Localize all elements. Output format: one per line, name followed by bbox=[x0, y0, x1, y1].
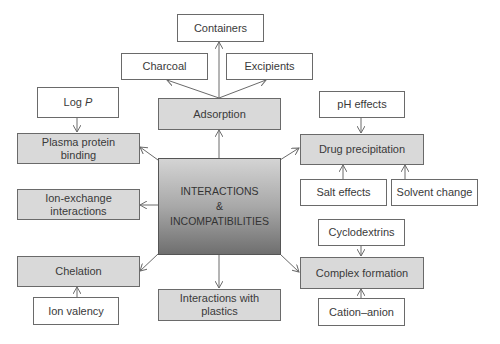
complex-formation-label: Complex formation bbox=[316, 267, 408, 280]
ph-effects-label: pH effects bbox=[337, 98, 386, 111]
drug-precipitation-box: Drug precipitation bbox=[300, 134, 424, 165]
cation-anion-box: Cation–anion bbox=[318, 298, 405, 326]
charcoal-label: Charcoal bbox=[142, 60, 186, 73]
containers-box: Containers bbox=[177, 14, 264, 42]
complex-formation-box: Complex formation bbox=[300, 257, 424, 289]
solvent-change-label: Solvent change bbox=[397, 186, 473, 199]
excipients-label: Excipients bbox=[244, 60, 294, 73]
adsorption-label: Adsorption bbox=[193, 108, 246, 121]
interactions-plastics-label: Interactions with plastics bbox=[180, 292, 259, 318]
containers-label: Containers bbox=[194, 22, 247, 35]
drug-precipitation-label: Drug precipitation bbox=[319, 143, 405, 156]
center-line-1: INTERACTIONS bbox=[180, 184, 258, 199]
ion-exchange-label: Ion-exchange interactions bbox=[45, 192, 112, 218]
chelation-label: Chelation bbox=[55, 265, 101, 278]
ph-effects-box: pH effects bbox=[319, 91, 405, 118]
ion-valency-box: Ion valency bbox=[33, 297, 119, 325]
ion-exchange-box: Ion-exchange interactions bbox=[17, 189, 140, 220]
solvent-change-box: Solvent change bbox=[391, 179, 478, 206]
log-p-box: Log P bbox=[37, 87, 119, 118]
excipients-box: Excipients bbox=[226, 53, 313, 80]
cyclodextrins-label: Cyclodextrins bbox=[328, 226, 394, 239]
chelation-box: Chelation bbox=[17, 256, 140, 287]
salt-effects-box: Salt effects bbox=[300, 179, 387, 206]
ion-valency-label: Ion valency bbox=[48, 305, 104, 318]
cation-anion-label: Cation–anion bbox=[329, 306, 394, 319]
center-line-2: & bbox=[216, 199, 223, 214]
interactions-plastics-box: Interactions with plastics bbox=[158, 289, 281, 321]
log-p-label: Log P bbox=[64, 96, 93, 109]
plasma-protein-binding-label: Plasma protein binding bbox=[42, 136, 115, 162]
adsorption-box: Adsorption bbox=[158, 98, 281, 130]
charcoal-box: Charcoal bbox=[121, 53, 208, 80]
center-line-3: INCOMPATIBILITIES bbox=[170, 214, 269, 229]
plasma-protein-binding-box: Plasma protein binding bbox=[17, 133, 140, 164]
interactions-incompatibilities-center: INTERACTIONS & INCOMPATIBILITIES bbox=[158, 158, 281, 255]
salt-effects-label: Salt effects bbox=[316, 186, 370, 199]
cyclodextrins-box: Cyclodextrins bbox=[318, 219, 405, 246]
